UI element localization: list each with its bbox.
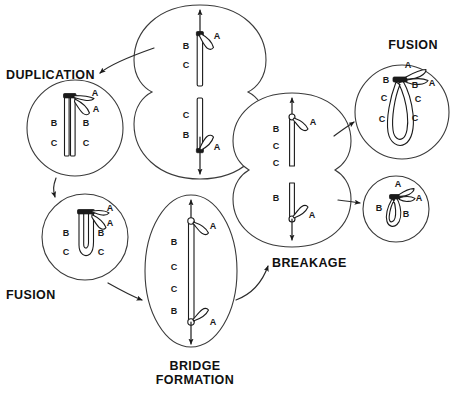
arm-label: C bbox=[381, 93, 388, 103]
arm-label: C bbox=[51, 138, 58, 148]
arm-label: B bbox=[376, 203, 383, 213]
arm-label: C bbox=[415, 94, 422, 104]
arrow-fusion-to-bridge bbox=[108, 283, 142, 300]
arm-label: A bbox=[214, 142, 221, 152]
stage-label-fusion-top-right: FUSION bbox=[388, 38, 438, 52]
arm-label: A bbox=[210, 317, 217, 327]
arm-label: A bbox=[107, 203, 114, 213]
arm-label: A bbox=[405, 60, 412, 70]
arm-label: A bbox=[416, 193, 423, 203]
arm-label: C bbox=[171, 262, 178, 272]
breakage-cell-pair: A B C C B A bbox=[233, 93, 351, 247]
arm-label: C bbox=[83, 138, 90, 148]
arm-label: B bbox=[183, 41, 190, 51]
chromatid-left bbox=[65, 96, 70, 156]
stage-label-duplication: DUPLICATION bbox=[6, 68, 95, 82]
arm-label: B bbox=[51, 118, 58, 128]
arm-label: A bbox=[429, 78, 436, 88]
arm-label: B bbox=[183, 130, 190, 140]
arrow-duplication-to-fusion bbox=[54, 178, 56, 197]
arm-label: B bbox=[273, 193, 280, 203]
arm-label: C bbox=[273, 158, 280, 168]
broken-end-stub-a2 bbox=[399, 197, 415, 202]
arm-label: B bbox=[273, 124, 280, 134]
stage-label-fusion-left: FUSION bbox=[6, 288, 56, 302]
stage-label-breakage: BREAKAGE bbox=[272, 256, 347, 270]
arm-label: C bbox=[63, 247, 70, 257]
arm-label: B bbox=[98, 228, 105, 238]
arm-label: C bbox=[412, 113, 419, 123]
bridge-formation-cell: A B C C B A bbox=[145, 195, 237, 347]
fusion-cell-lower-left: A A B B C C bbox=[42, 194, 128, 280]
arm-label: B bbox=[171, 237, 178, 247]
arm-label: C bbox=[98, 247, 105, 257]
bfb-cycle-diagram: A B C C B A A A B B C C A A B B C bbox=[0, 0, 460, 394]
chromosome-arm-upper bbox=[290, 117, 295, 166]
stage-label-bridge-formation-line1: BRIDGE bbox=[169, 359, 220, 373]
fusion-cell-upper-right: A A B B C C C C bbox=[355, 60, 449, 159]
arm-label: C bbox=[273, 141, 280, 151]
duplication-cell: A A B B C C bbox=[27, 80, 123, 176]
arm-label: A bbox=[309, 210, 316, 220]
arm-label: C bbox=[183, 110, 190, 120]
arm-label: A bbox=[93, 104, 100, 114]
chromosome-arm-lower bbox=[290, 183, 295, 219]
diagram-canvas: A B C C B A A A B B C C A A B B C bbox=[0, 0, 460, 394]
stage-label-bridge-formation-line2: FORMATION bbox=[156, 373, 234, 387]
arm-label: C bbox=[171, 284, 178, 294]
arm-label: B bbox=[171, 306, 178, 316]
arm-label: B bbox=[412, 80, 419, 90]
arm-label: A bbox=[310, 117, 317, 127]
arm-label: B bbox=[383, 75, 390, 85]
arm-label: B bbox=[63, 228, 70, 238]
fusion-cell-lower-right: A A B B bbox=[363, 176, 429, 242]
arm-label: C bbox=[183, 60, 190, 70]
arm-label: B bbox=[83, 118, 90, 128]
arm-label: A bbox=[210, 221, 217, 231]
anaphase-bridge-strand bbox=[189, 221, 195, 322]
arm-label: A bbox=[214, 31, 221, 41]
arm-label: A bbox=[395, 179, 402, 189]
chromatid-right bbox=[71, 96, 76, 156]
cell-membrane bbox=[42, 194, 128, 280]
arm-label: C bbox=[379, 114, 386, 124]
arm-label: B bbox=[403, 209, 410, 219]
arrow-bridge-to-breakage bbox=[236, 266, 268, 300]
arm-label: A bbox=[92, 88, 99, 98]
arm-label: A bbox=[107, 218, 114, 228]
